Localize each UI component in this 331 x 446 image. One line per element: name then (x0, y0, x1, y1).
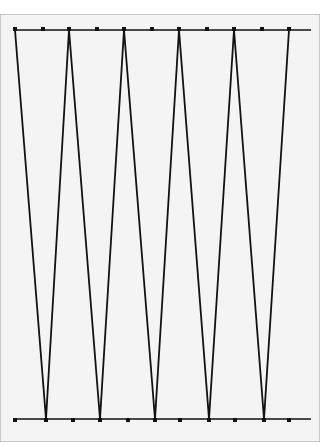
top-node-dot (41, 27, 45, 31)
zigzag-diagram (0, 0, 331, 446)
bottom-node-dot (98, 418, 102, 422)
top-node-dot (13, 27, 17, 31)
zigzag-web-line (15, 30, 289, 419)
bottom-node-dot (153, 418, 157, 422)
top-node-dot (122, 27, 126, 31)
top-node-dot (260, 27, 264, 31)
bottom-node-dot (207, 418, 211, 422)
bottom-node-dot (233, 418, 237, 422)
top-node-dot (150, 27, 154, 31)
top-node-dot (287, 27, 291, 31)
bottom-node-dot (262, 418, 266, 422)
top-node-dot (95, 27, 99, 31)
bottom-node-dot (13, 418, 17, 422)
top-node-dot (67, 27, 71, 31)
top-node-dot (177, 27, 181, 31)
top-node-dot (205, 27, 209, 31)
bottom-node-dot (178, 418, 182, 422)
bottom-node-dot (126, 418, 130, 422)
bottom-node-dot (287, 418, 291, 422)
bottom-node-dot (71, 418, 75, 422)
top-node-dot (232, 27, 236, 31)
bottom-node-dot (44, 418, 48, 422)
